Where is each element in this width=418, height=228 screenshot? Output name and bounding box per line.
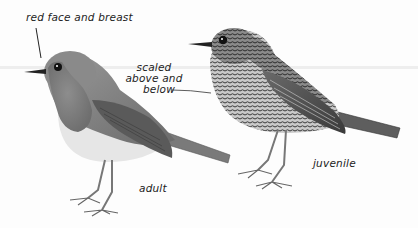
annotation-scaled-line-3: below — [124, 84, 184, 95]
birds-drawing — [0, 0, 418, 228]
leader-line-red-face — [36, 28, 41, 58]
annotation-red-face: red face and breast — [26, 12, 133, 23]
annotation-scaled: scaled above and below — [124, 62, 184, 95]
caption-adult: adult — [139, 183, 167, 194]
robin-illustration: red face and breast scaled above and bel… — [0, 0, 418, 228]
juvenile-robin — [188, 28, 400, 189]
caption-juvenile: juvenile — [313, 158, 356, 169]
